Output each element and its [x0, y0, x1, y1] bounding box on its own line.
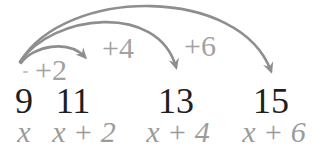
expression-term-3: x + 4 — [146, 117, 210, 147]
jump-label-plus-4: +4 — [102, 33, 134, 63]
expression-term-1: x — [17, 117, 30, 147]
jump-label-plus-6: +6 — [184, 31, 216, 61]
sequence-term-1: 9 — [15, 83, 33, 119]
stray-mark-icon — [23, 71, 28, 73]
expression-term-4: x + 6 — [242, 117, 306, 147]
sequence-term-2: 11 — [56, 83, 91, 119]
sequence-term-3: 13 — [158, 83, 194, 119]
sequence-term-4: 15 — [253, 83, 289, 119]
expression-term-2: x + 2 — [52, 117, 116, 147]
sequence-diagram: +2 +4 +6 9 11 13 15 x x + 2 x + 4 x + 6 — [0, 0, 325, 150]
